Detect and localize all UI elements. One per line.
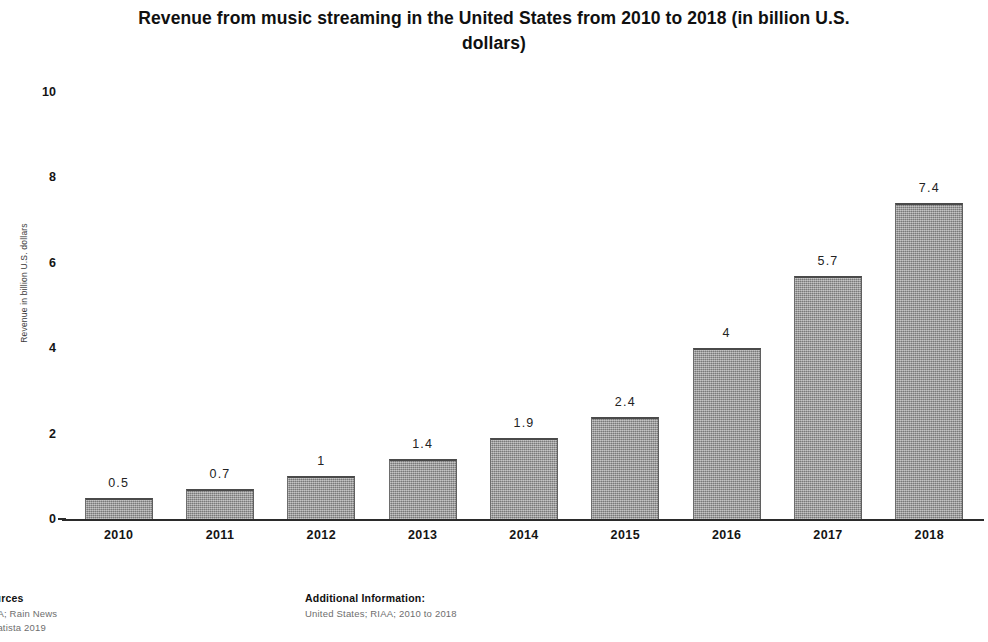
bar-2018[interactable]: [895, 203, 963, 519]
y-tick-label: 10: [22, 85, 56, 99]
bar-value-label-2015: 2.4: [585, 395, 665, 409]
bar-value-label-2013: 1.4: [383, 437, 463, 451]
bar-2013[interactable]: [389, 459, 457, 519]
footer: ources IAA; Rain News Statista 2019 Addi…: [0, 592, 988, 642]
y-tick-label: 2: [22, 427, 56, 441]
bar-value-label-2016: 4: [687, 326, 767, 340]
y-tick-label: 6: [22, 256, 56, 270]
bar-chart: Revenue in billion U.S. dollars 10 8 6 4…: [0, 0, 988, 560]
x-tick-label-2016: 2016: [687, 528, 767, 542]
bar-value-label-2010: 0.5: [79, 476, 159, 490]
x-tick-label-2017: 2017: [788, 528, 868, 542]
x-tick-label-2013: 2013: [383, 528, 463, 542]
bar-2016[interactable]: [693, 348, 761, 519]
y-tick-label: 0: [22, 512, 56, 526]
bar-value-label-2012: 1: [281, 454, 361, 468]
x-tick-label-2011: 2011: [180, 528, 260, 542]
x-tick-label-2018: 2018: [889, 528, 969, 542]
sources-heading: ources: [0, 592, 57, 604]
y-tick-label: 8: [22, 170, 56, 184]
footer-sources: ources IAA; Rain News Statista 2019: [0, 592, 57, 635]
x-tick-label-2014: 2014: [484, 528, 564, 542]
sources-line: IAA; Rain News: [0, 607, 57, 621]
x-axis-line: [62, 519, 984, 521]
x-tick-label-2010: 2010: [79, 528, 159, 542]
bar-2011[interactable]: [186, 489, 254, 519]
x-tick-label-2012: 2012: [281, 528, 361, 542]
bar-2014[interactable]: [490, 438, 558, 519]
sources-line: Statista 2019: [0, 621, 57, 635]
bar-value-label-2017: 5.7: [788, 254, 868, 268]
y-tick-label: 4: [22, 341, 56, 355]
bar-2012[interactable]: [287, 476, 355, 519]
x-tick-label-2015: 2015: [585, 528, 665, 542]
y-axis-zero-tick: [58, 518, 66, 520]
bar-2010[interactable]: [85, 498, 153, 519]
bar-value-label-2011: 0.7: [180, 467, 260, 481]
bar-2015[interactable]: [591, 417, 659, 519]
bar-2017[interactable]: [794, 276, 862, 519]
footer-additional-information: Additional Information: United States; R…: [305, 592, 457, 621]
additional-information-line: United States; RIAA; 2010 to 2018: [305, 607, 457, 621]
bar-value-label-2014: 1.9: [484, 416, 564, 430]
bar-value-label-2018: 7.4: [889, 181, 969, 195]
additional-information-heading: Additional Information:: [305, 592, 457, 604]
y-axis-ticks: 10 8 6 4 2 0: [0, 0, 56, 560]
